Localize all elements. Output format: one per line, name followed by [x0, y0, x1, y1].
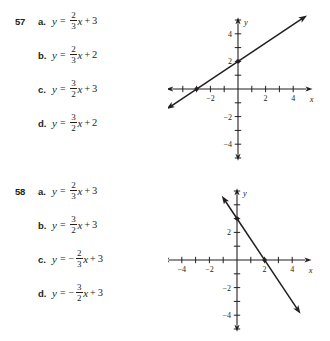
operator: +: [84, 84, 90, 94]
x-axis-tick-label: −2: [206, 94, 215, 103]
option-row: b. y = 3 2 x + 3: [0, 212, 170, 246]
fraction-coefficient: 2 3: [76, 249, 83, 269]
fraction-denominator: 2: [70, 90, 77, 99]
fraction-numerator: 3: [76, 283, 83, 292]
line-arrow-end: [298, 15, 307, 22]
line-arrow-start: [222, 196, 229, 205]
plotted-point: [236, 59, 240, 63]
graph-problem-58: −4−2242−2−4xy: [168, 176, 328, 340]
x-axis-tick-label: 4: [291, 94, 295, 103]
y-axis-tick-label: 4: [228, 30, 232, 39]
problem-57: 57 a. y = 2 3 x + 3 b. y =: [0, 8, 170, 144]
problem-number: 58: [15, 186, 25, 197]
option-row: c. y = − 2 3 x + 3: [0, 246, 170, 280]
fraction-numerator: 2: [76, 249, 83, 258]
option-row: 58 a. y = 2 3 x + 3: [0, 178, 170, 212]
equals-sign: =: [60, 50, 66, 60]
operator: +: [84, 220, 90, 230]
equation-57b: y = 2 3 x + 2: [52, 45, 97, 65]
option-row: b. y = 2 3 x + 2: [0, 42, 170, 76]
constant-term: 2: [92, 50, 97, 61]
equation-lhs: y: [52, 50, 57, 61]
equation-58c: y = − 2 3 x + 3: [52, 249, 103, 269]
operator: +: [84, 16, 90, 26]
y-axis-arrow-down: [235, 154, 240, 161]
equation-58b: y = 3 2 x + 3: [52, 215, 97, 235]
option-letter-d: d.: [38, 118, 46, 129]
plotted-point: [263, 258, 267, 262]
constant-term: 3: [98, 288, 103, 299]
line-arrow-start: [168, 102, 175, 109]
variable-x: x: [78, 118, 83, 129]
equation-58a: y = 2 3 x + 3: [52, 181, 97, 201]
fraction-coefficient: 3 2: [70, 215, 77, 235]
fraction-denominator: 2: [76, 294, 83, 303]
coordinate-plane-57: −22442−2−4xy: [168, 6, 328, 170]
variable-x: x: [83, 288, 88, 299]
y-axis-tick-label: −2: [223, 113, 232, 122]
x-axis-tick-label: 2: [263, 265, 267, 274]
fraction-coefficient: 3 2: [70, 79, 77, 99]
problem-58: 58 a. y = 2 3 x + 3 b. y =: [0, 178, 170, 314]
variable-x: x: [78, 16, 83, 27]
variable-x: x: [78, 186, 83, 197]
equation-57c: y = 3 2 x + 3: [52, 79, 97, 99]
operator: +: [90, 254, 96, 264]
x-axis-label: x: [308, 265, 313, 275]
constant-term: 3: [92, 16, 97, 27]
leading-sign: −: [69, 288, 75, 298]
x-axis-label: x: [309, 94, 314, 104]
equals-sign: =: [60, 254, 66, 264]
fraction-denominator: 3: [76, 260, 83, 269]
option-row: c. y = 3 2 x + 3: [0, 76, 170, 110]
equation-58d: y = − 3 2 x + 3: [52, 283, 103, 303]
y-axis-tick-label: −4: [223, 140, 232, 149]
fraction-coefficient: 2 3: [70, 45, 77, 65]
operator: +: [84, 118, 90, 128]
option-letter-d: d.: [38, 288, 46, 299]
leading-sign: −: [69, 254, 75, 264]
plotted-line: [225, 200, 298, 310]
operator: +: [84, 186, 90, 196]
operator: +: [84, 50, 90, 60]
line-arrow-end: [293, 305, 300, 314]
worksheet-page: 57 a. y = 2 3 x + 3 b. y =: [0, 0, 330, 341]
y-axis-arrow-down: [234, 325, 239, 332]
option-letter-b: b.: [38, 220, 46, 231]
y-axis-tick-label: −2: [222, 284, 231, 293]
fraction-coefficient: 2 3: [70, 181, 77, 201]
fraction-numerator: 2: [70, 181, 77, 190]
y-axis-tick-label: 2: [227, 228, 231, 237]
constant-term: 3: [92, 220, 97, 231]
option-letter-c: c.: [38, 84, 46, 95]
variable-x: x: [83, 254, 88, 265]
option-row: d. y = 3 2 x + 2: [0, 110, 170, 144]
equals-sign: =: [60, 84, 66, 94]
variable-x: x: [78, 220, 83, 231]
fraction-coefficient: 3 2: [76, 283, 83, 303]
coordinate-plane-58: −4−2242−2−4xy: [168, 176, 328, 340]
graph-problem-57: −22442−2−4xy: [168, 6, 328, 170]
y-axis-arrow-up: [234, 188, 239, 195]
fraction-denominator: 3: [70, 192, 77, 201]
fraction-numerator: 3: [70, 113, 77, 122]
x-axis-tick-label: 2: [264, 94, 268, 103]
fraction-denominator: 2: [70, 124, 77, 133]
equation-lhs: y: [52, 84, 57, 95]
plotted-point: [235, 217, 239, 221]
option-letter-c: c.: [38, 254, 46, 265]
equation-lhs: y: [52, 254, 57, 265]
equals-sign: =: [60, 220, 66, 230]
equals-sign: =: [60, 288, 66, 298]
operator: +: [90, 288, 96, 298]
plotted-point: [195, 87, 199, 91]
fraction-coefficient: 3 2: [70, 113, 77, 133]
equation-lhs: y: [52, 16, 57, 27]
constant-term: 3: [92, 186, 97, 197]
equals-sign: =: [60, 16, 66, 26]
x-axis-arrow-right: [306, 86, 313, 91]
equation-lhs: y: [52, 186, 57, 197]
variable-x: x: [78, 84, 83, 95]
equals-sign: =: [60, 186, 66, 196]
equation-lhs: y: [52, 118, 57, 129]
